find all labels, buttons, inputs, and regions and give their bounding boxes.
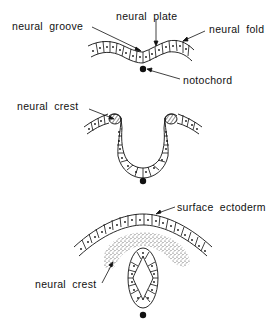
notochord-stage-3: [140, 312, 146, 318]
label-notochord: notochord: [183, 75, 232, 86]
stage-2-leader-line: [89, 109, 114, 119]
notochord-stage-2: [140, 178, 146, 184]
neural-crest-right-stage-2: [165, 114, 177, 124]
stage-2-neural-groove: [84, 114, 202, 178]
notochord-stage-1: [140, 66, 146, 72]
label-neural-plate: neural plate: [116, 11, 177, 22]
label-neural-crest-stage-3: neural crest: [35, 279, 96, 290]
label-neural-groove: neural groove: [12, 21, 83, 32]
label-neural-fold: neural fold: [209, 24, 264, 35]
label-neural-crest-stage-2: neural crest: [17, 101, 78, 112]
label-surface-ectoderm: surface ectoderm: [177, 202, 266, 213]
neural-tube-stage-3: [128, 248, 158, 308]
stage-1-neural-plate: [88, 40, 194, 63]
